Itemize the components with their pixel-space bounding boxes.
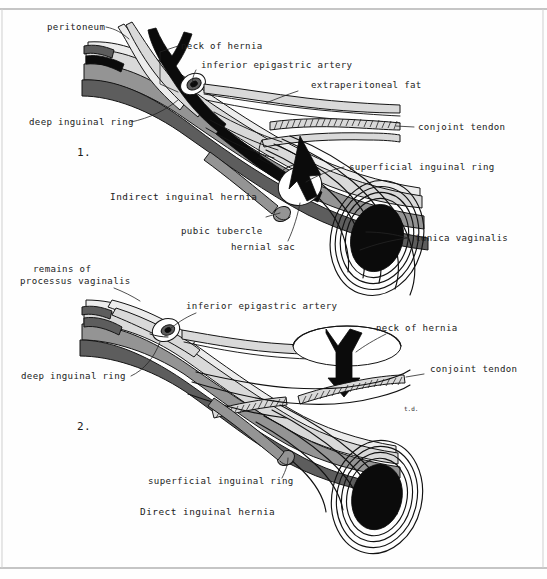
inguinal-hernia-plate: peritoneum neck of hernia inferior epiga… <box>0 0 547 579</box>
label-conjoint-tendon-p1: conjoint tendon <box>418 122 505 132</box>
label-inferior-epigastric-artery-p1: inferior epigastric artery <box>201 60 353 70</box>
label-pubic-tubercle-p1: pubic tubercle <box>181 226 263 236</box>
panel-1-caption: Indirect inguinal hernia <box>110 191 257 202</box>
label-tunica-vaginalis-p1: tunica vaginalis <box>415 233 508 243</box>
label-deep-inguinal-ring-p2: deep inguinal ring <box>21 371 126 381</box>
panel-2-caption: Direct inguinal hernia <box>140 506 275 517</box>
label-extraperitoneal-fat-p1: extraperitoneal fat <box>311 80 422 90</box>
artist-signature: t.d. <box>404 405 418 412</box>
label-processus-vaginalis-line2-p2: processus vaginalis <box>20 276 131 286</box>
figure-root: peritoneum neck of hernia inferior epiga… <box>0 0 547 579</box>
label-conjoint-tendon-p2: conjoint tendon <box>430 364 517 374</box>
label-neck-of-hernia-p1: neck of hernia <box>181 41 263 51</box>
label-deep-inguinal-ring-p1: deep inguinal ring <box>29 117 134 127</box>
panel-2-number: 2. <box>77 420 91 433</box>
label-peritoneum-p1: peritoneum <box>47 22 105 32</box>
label-neck-of-hernia-p2: neck of hernia <box>376 323 458 333</box>
label-processus-vaginalis-line1-p2: remains of <box>33 264 91 274</box>
label-superficial-inguinal-ring-p2: superficial inguinal ring <box>148 476 294 486</box>
label-superficial-inguinal-ring-p1: superficial inguinal ring <box>349 162 495 172</box>
label-hernial-sac-p1: hernial sac <box>231 242 295 252</box>
label-inferior-epigastric-artery-p2: inferior epigastric artery <box>186 301 338 311</box>
panel-1-number: 1. <box>77 146 91 159</box>
